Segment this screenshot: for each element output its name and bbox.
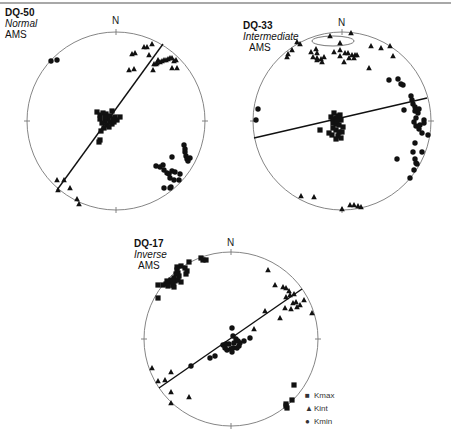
plane-trace-line [159,289,302,388]
kint-point [341,59,347,64]
kmax-point [291,382,296,387]
plot1-subtitle: Normal [5,18,37,29]
kmin-point [253,117,258,122]
kmin-point [54,57,59,62]
kint-point [293,299,299,304]
kmin-point [48,58,53,63]
kmin-point [177,171,182,176]
kint-point [337,40,343,45]
kmax-point [183,271,188,276]
plot1-title: DQ-50 [5,7,37,18]
kmin-point [222,342,227,347]
kint-point [169,65,175,70]
kint-point [251,326,257,331]
kmin-point [412,140,417,145]
kint-point [337,47,343,52]
kmax-point [160,282,165,287]
plot2-title: DQ-33 [243,20,299,31]
kint-point [288,306,294,311]
kmax-point [340,124,345,129]
legend-item-kmin: ●Kmin [305,415,334,428]
kint-point [390,53,396,58]
kint-point [186,394,192,399]
kint-point [301,297,307,302]
stereonet-figure [0,0,451,445]
kint-point [277,315,283,320]
kmin-point [394,156,399,161]
kint-point [54,177,60,182]
kmax-point [334,118,339,123]
kmin-point [400,82,405,87]
kint-point [331,49,337,54]
kmin-point [212,353,217,358]
kmin-point [235,338,240,343]
kint-point [67,185,73,190]
plot2-subtitle: Intermediate [243,31,299,42]
kmin-point [167,185,172,190]
kint-point [155,378,161,383]
plot3-ams: AMS [134,260,167,271]
kint-point [313,46,319,51]
kmin-point [247,335,252,340]
triangle-icon: ▲ [305,404,314,413]
kint-point [272,282,278,287]
kmin-point [229,349,234,354]
kmin-point [386,77,391,82]
kmax-point [317,127,322,132]
kmax-point [178,279,183,284]
kmin-point [414,161,419,166]
kmax-point [99,120,104,125]
kint-point [308,49,314,54]
kmax-point [171,284,176,289]
circle-icon: ● [305,417,314,426]
kint-point [366,65,372,70]
kint-point [131,66,137,71]
kmax-point [111,119,116,124]
kmin-point [161,185,166,190]
kint-point [74,196,80,201]
kmin-point [187,155,192,160]
kmin-point [421,120,426,125]
kmax-point [331,110,336,115]
kmin-point [419,130,424,135]
kmax-point [109,108,114,113]
kmin-point [207,355,212,360]
plot3-subtitle: Inverse [134,249,167,260]
kint-point [126,67,132,72]
plot1-label: DQ-50 Normal AMS [5,7,37,40]
legend: ■Kmax ▲Kint ●Kmin [305,389,334,428]
kint-point [162,377,168,382]
kint-point [387,43,393,48]
legend-item-kint: ▲Kint [305,402,334,415]
kmin-point [410,149,415,154]
kint-point [339,206,345,211]
kint-point [311,194,317,199]
kmin-point [241,338,246,343]
kint-point [378,45,384,50]
kmax-point [117,114,122,119]
kmin-point [188,363,193,368]
kint-point [168,389,174,394]
plot1-north-label: N [112,15,119,26]
kint-point [174,65,180,70]
kint-point [351,202,357,207]
kmin-point [255,106,260,111]
kmax-point [155,282,160,287]
kint-point [168,400,174,405]
kmax-point [106,124,111,129]
kint-point [150,67,156,72]
kmin-point [171,177,176,182]
kmax-point [337,112,342,117]
kmin-point [229,325,234,330]
kint-point [298,193,304,198]
plot1-ams: AMS [5,29,37,40]
kmin-point [169,154,174,159]
plot3-north-label: N [227,237,234,248]
plot2-north-label: N [338,17,345,28]
kint-point [146,52,152,57]
kmax-point [155,295,160,300]
kmax-point [338,135,343,140]
kmax-point [96,139,101,144]
kmax-point [186,259,191,264]
plot2-ams: AMS [243,42,299,53]
